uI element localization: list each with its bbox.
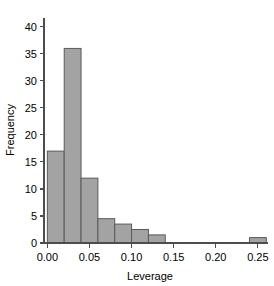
y-axis-tick-label: 15 [25, 156, 37, 168]
histogram-bar [115, 224, 132, 243]
x-axis-tick-label: 0.00 [37, 251, 58, 263]
x-axis-tick-label: 0.25 [247, 251, 268, 263]
y-axis-tick-label: 10 [25, 183, 37, 195]
y-axis-tick-label: 25 [25, 102, 37, 114]
histogram-bar [148, 235, 165, 243]
histogram-bar [98, 219, 115, 243]
y-axis-tick-label: 40 [25, 21, 37, 33]
histogram-bar [47, 151, 64, 243]
x-axis-tick-label: 0.15 [163, 251, 184, 263]
x-axis-tick-label: 0.05 [79, 251, 100, 263]
y-axis-tick-label: 5 [31, 210, 37, 222]
y-axis-tick-label: 35 [25, 48, 37, 60]
x-axis-tick-label: 0.20 [205, 251, 226, 263]
y-axis-tick-label: 30 [25, 75, 37, 87]
histogram-bar [249, 238, 266, 243]
histogram-bar [81, 178, 98, 243]
histogram-bar [132, 229, 149, 243]
y-axis-tick-label: 20 [25, 129, 37, 141]
x-axis-tick-label: 0.10 [121, 251, 142, 263]
x-axis-title: Leverage [127, 270, 173, 282]
y-axis-title: Frequency [4, 104, 16, 156]
y-axis-tick-label: 0 [31, 237, 37, 249]
histogram-bar [64, 48, 81, 243]
chart-canvas: 0510152025303540 0.000.050.100.150.200.2… [0, 0, 274, 286]
histogram-chart: 0510152025303540 0.000.050.100.150.200.2… [0, 0, 274, 286]
